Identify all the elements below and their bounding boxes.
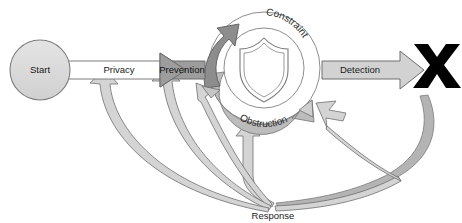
prevention-node: Prevention (159, 53, 205, 87)
detection-label: Detection (340, 64, 380, 75)
security-flow-diagram: Constraint Obstruction Privacy Preventio… (0, 0, 462, 223)
detection-arrow: Detection (322, 51, 424, 89)
start-node: Start (10, 40, 70, 100)
diagram-canvas: Constraint Obstruction Privacy Preventio… (0, 0, 462, 223)
start-label: Start (30, 64, 50, 75)
response-label: Response (252, 210, 295, 221)
prevention-label: Prevention (159, 64, 204, 75)
constraint-ring-group: Constraint Obstruction (202, 6, 320, 134)
blocked-x-mark-icon (413, 44, 461, 88)
privacy-label: Privacy (103, 64, 134, 75)
